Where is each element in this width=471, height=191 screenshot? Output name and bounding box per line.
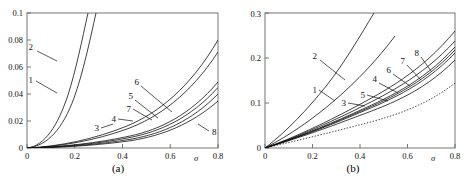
x-tick-label: 0.6 [165,151,176,161]
y-tick-label: 0.02 [8,116,23,126]
curves-b [265,13,455,148]
y-ticks-b [265,13,269,148]
curve-label-2-a: 2 [29,42,34,52]
x-ticks-b [265,144,455,148]
curve-2-a [27,13,96,148]
curve-1-a [27,13,88,148]
panel-b: 0 0.1 0.2 0.3 0 0.2 0.4 0.6 0.8 σ [235,0,471,191]
curve-label-7-b: 7 [401,56,406,66]
x-tick-label: 0.4 [117,151,128,161]
y-tick-label: 0.06 [8,62,23,72]
y-tick-label: 0 [19,143,23,153]
plot-a-svg: 0 0.02 0.04 0.06 0.08 0.1 0 0.2 0.4 0.6 … [0,0,236,165]
panel-caption-b: (b) [235,162,471,174]
x-tick-label: 0 [25,151,29,161]
axes-frame-b [265,13,455,148]
plot-b-svg: 0 0.1 0.2 0.3 0 0.2 0.4 0.6 0.8 σ [235,0,471,165]
curves-a [27,13,218,148]
curve-label-4-a: 4 [112,114,117,124]
curve-label-4-b: 4 [373,74,378,84]
x-tick-label: 0.2 [307,151,318,161]
curve-label-1-a: 1 [29,75,34,85]
x-tick-label: 0.8 [450,151,461,161]
y-tick-label: 0.3 [250,9,261,19]
curve-label-7-a: 7 [127,104,132,114]
curve-6-a [27,88,218,149]
curve-label-2-b: 2 [313,51,318,61]
y-tick-label: 0.08 [8,35,23,45]
y-tick-label: 0.2 [250,53,261,63]
x-tick-label: 0.2 [69,151,80,161]
curve-label-3-b: 3 [342,98,347,108]
curve-label-1-b: 1 [313,85,318,95]
curve-label-5-a: 5 [129,91,134,101]
curve-label-6-a: 6 [135,77,140,87]
y-tick-label: 0.1 [12,8,23,18]
x-tick-label: 0.8 [213,151,224,161]
y-tick-label: 0.1 [250,98,261,108]
y-tick-label: 0 [257,143,261,153]
panel-a: 0 0.02 0.04 0.06 0.08 0.1 0 0.2 0.4 0.6 … [0,0,236,191]
curve-label-5-b: 5 [361,90,366,100]
curve-label-3-a: 3 [95,123,100,133]
y-tick-label: 0.04 [8,89,24,99]
x-tick-label: 0.4 [355,151,366,161]
panel-caption-a: (a) [0,162,236,174]
x-tick-label: 0.6 [402,151,413,161]
curve-label-6-b: 6 [387,65,392,75]
curve-label-8-a: 8 [212,127,217,137]
figure-container: 0 0.02 0.04 0.06 0.08 0.1 0 0.2 0.4 0.6 … [0,0,471,191]
x-tick-label: 0 [263,151,267,161]
curve-4-a [27,52,218,148]
curve-label-8-b: 8 [415,48,420,58]
leader-lines-a [36,51,209,131]
